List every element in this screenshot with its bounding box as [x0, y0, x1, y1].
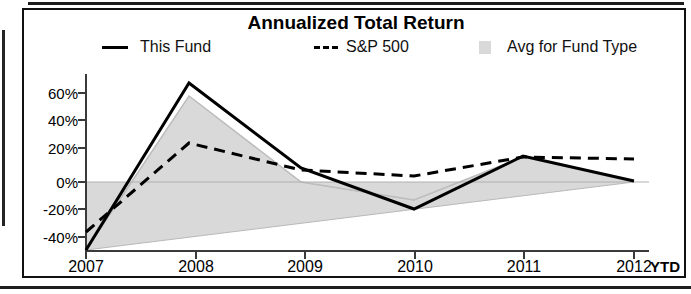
area-swatch-icon [479, 41, 491, 54]
x-axis-labels: 2007 2008 2009 2010 2011 2012 YTD [24, 258, 688, 282]
scan-artifact-left-mark [2, 30, 5, 226]
plot-svg [24, 58, 688, 280]
legend-item-avg-fund-type: Avg for Fund Type [479, 36, 637, 58]
dashed-line-icon [314, 46, 338, 49]
x-tick-2008: 2008 [178, 258, 214, 276]
x-tick-2011: 2011 [507, 258, 541, 276]
legend-label-sp500: S&P 500 [346, 38, 409, 56]
x-tick-2009: 2009 [287, 258, 323, 276]
x-tick-2007: 2007 [68, 258, 104, 276]
chart-legend: This Fund S&P 500 Avg for Fund Type [24, 36, 688, 60]
x-tick-2010: 2010 [397, 258, 433, 276]
scan-artifact-top-rule [28, 2, 684, 5]
legend-item-sp500: S&P 500 [314, 36, 409, 58]
ytd-note: YTD [650, 258, 680, 276]
chart-title: Annualized Total Return [24, 12, 688, 34]
legend-item-this-fund: This Fund [102, 36, 211, 58]
chart-panel: Annualized Total Return This Fund S&P 50… [22, 8, 686, 278]
x-tick-2012: 2012 [616, 258, 652, 276]
legend-label-this-fund: This Fund [140, 38, 211, 56]
scan-artifact-bottom-rule [0, 286, 691, 289]
chart-screenshot: Annualized Total Return This Fund S&P 50… [0, 0, 691, 294]
solid-line-icon [102, 46, 128, 49]
legend-label-avg-fund-type: Avg for Fund Type [507, 38, 637, 56]
plot-area [24, 58, 688, 280]
